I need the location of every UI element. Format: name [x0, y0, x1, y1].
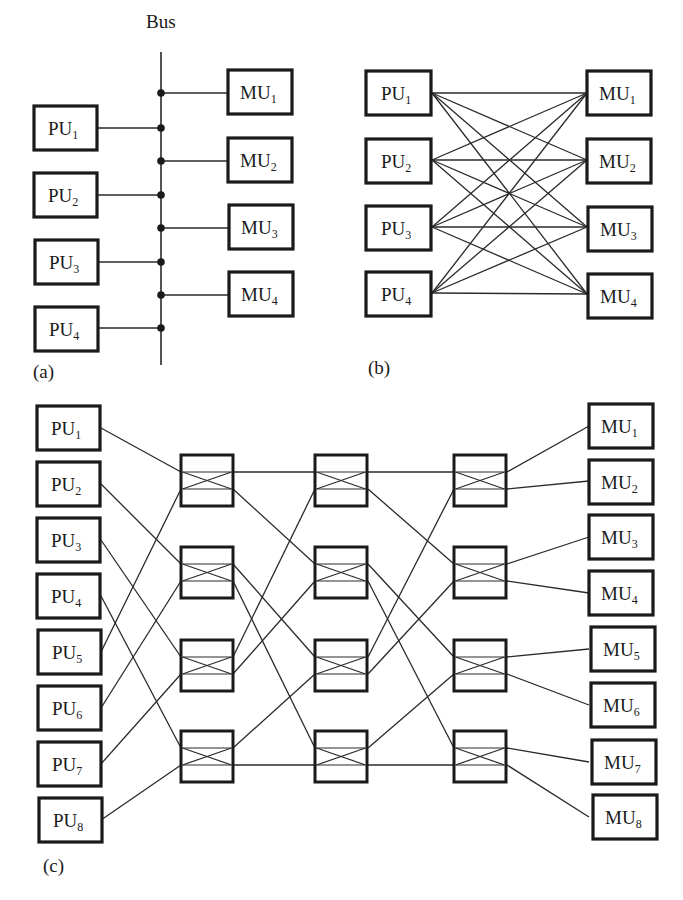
mu-box: MU2 [587, 139, 651, 183]
panel-b-crossbar-architecture: PU1 PU2 PU3 PU4 MU1 MU2 MU3 MU4 [366, 71, 652, 379]
mu-box: MU1 [228, 70, 292, 114]
switch-2x2 [454, 547, 506, 598]
panel-c-multistage-network: PU1 PU2 PU3 PU4 PU5 PU6 PU7 PU8 [37, 404, 657, 877]
mu-box: MU5 [591, 627, 655, 671]
switch-2x2 [454, 455, 506, 506]
switch-2x2 [181, 731, 233, 782]
pu-box: PU3 [35, 240, 98, 284]
mu-box: MU4 [229, 272, 293, 316]
mu-box: MU4 [588, 274, 652, 318]
switch-2x2 [315, 455, 367, 506]
switch-2x2 [181, 547, 233, 598]
pu-box: PU2 [366, 139, 431, 183]
panel-a-caption: (a) [33, 361, 54, 383]
mu-box: MU4 [589, 571, 653, 615]
bus-label: Bus [146, 11, 176, 32]
pu-box: PU1 [366, 71, 431, 115]
pu-box: PU3 [366, 206, 431, 250]
switch-2x2 [454, 640, 506, 691]
switch-2x2 [181, 455, 233, 506]
panel-c-caption: (c) [43, 855, 64, 877]
stage3-to-mu-links [507, 426, 589, 817]
mu-box: MU2 [228, 138, 292, 182]
pu-box: PU5 [38, 630, 101, 674]
pu-box: PU3 [37, 518, 100, 562]
switch-stage-3 [454, 455, 506, 782]
switch-2x2 [315, 547, 367, 598]
mu-box: MU8 [593, 795, 657, 839]
mu-box: MU2 [589, 460, 653, 504]
stage2-to-stage3-links [368, 472, 454, 765]
pu-box: PU4 [35, 307, 98, 351]
switch-2x2 [181, 640, 233, 691]
pu-box: PU1 [37, 406, 100, 450]
switch-stage-2 [315, 455, 367, 782]
mu-box: MU1 [587, 71, 651, 115]
pu-box: PU2 [37, 462, 100, 506]
stage1-to-stage2-links [233, 472, 315, 765]
mu-box: MU3 [588, 207, 652, 251]
crossbar-links [432, 93, 587, 294]
pu-box: PU4 [37, 574, 100, 618]
pu-box: PU2 [34, 173, 97, 217]
switch-stage-1 [181, 455, 233, 782]
mu-box: MU3 [229, 205, 293, 249]
panel-a-bus-architecture: Bus PU1 PU2 PU3 [33, 11, 293, 383]
panel-b-caption: (b) [368, 357, 390, 379]
pu-box: PU1 [34, 106, 97, 150]
pu-to-stage1-links [101, 428, 181, 820]
pu-box: PU4 [366, 272, 431, 316]
switch-2x2 [315, 640, 367, 691]
mu-box: MU1 [589, 404, 653, 448]
mu-box: MU3 [589, 515, 653, 559]
pu-box: PU7 [38, 742, 101, 786]
switch-2x2 [315, 731, 367, 782]
switch-2x2 [454, 731, 506, 782]
pu-box: PU8 [39, 798, 102, 842]
mu-box: MU6 [591, 683, 655, 727]
pu-box: PU6 [38, 686, 101, 730]
mu-box: MU7 [592, 740, 656, 784]
